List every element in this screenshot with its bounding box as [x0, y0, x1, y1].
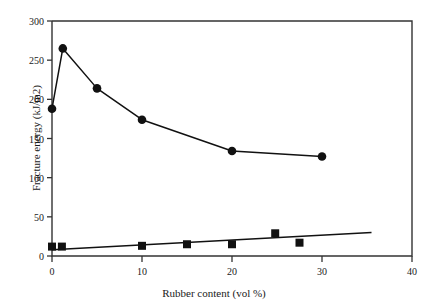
x-axis-ticks — [52, 256, 412, 262]
x-tick-label: 10 — [137, 266, 147, 277]
chart-figure: 050100150200250300 010203040 Fracture en… — [0, 0, 428, 305]
x-axis-title: Rubber content (vol %) — [0, 287, 428, 299]
y-axis-ticks — [47, 21, 52, 256]
y-axis-title: Fracture energy (kJ/m2) — [30, 58, 42, 218]
series-markers — [48, 44, 327, 250]
x-tick-label: 20 — [227, 266, 237, 277]
x-tick-label: 30 — [317, 266, 327, 277]
x-tick-label: 40 — [407, 266, 417, 277]
plot-area — [0, 0, 428, 305]
x-tick-label: 0 — [50, 266, 55, 277]
series-lines — [52, 48, 322, 156]
y-axis-title-wrapper: Fracture energy (kJ/m2) — [18, 20, 32, 256]
axis-frame — [52, 21, 412, 256]
trend-lines — [52, 233, 372, 250]
